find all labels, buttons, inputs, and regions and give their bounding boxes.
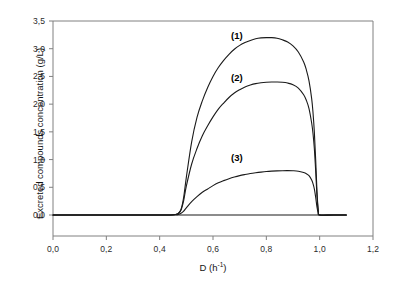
curve-label-1: (1) <box>231 30 243 41</box>
curve-label-2: (2) <box>231 72 243 83</box>
curve-path-2 <box>53 82 346 215</box>
x-axis-title-close: ) <box>223 262 226 273</box>
y-tick-label: 3,5 <box>10 16 45 26</box>
plot-area <box>0 0 394 289</box>
axes <box>49 21 373 240</box>
x-tick-label: 0,8 <box>260 244 272 254</box>
y-axis-title: Excreted compounds concentration (g/L) <box>34 29 45 239</box>
curve-path-1 <box>53 38 346 216</box>
x-tick-label: 0,4 <box>154 244 166 254</box>
x-axis-title-base: D (h <box>200 262 218 273</box>
x-tick-label: 1,2 <box>367 244 379 254</box>
curves <box>53 38 346 216</box>
x-tick-label: 1,0 <box>314 244 326 254</box>
x-tick-label: 0,2 <box>100 244 112 254</box>
x-tick-label: 0,0 <box>47 244 59 254</box>
chart-figure: 0,00,51,01,52,02,53,03,5 0,00,20,40,60,8… <box>0 0 394 289</box>
curve-path-3 <box>53 171 346 215</box>
curve-label-3: (3) <box>231 152 243 163</box>
x-axis-title: D (h-1) <box>53 262 373 273</box>
x-tick-label: 0,6 <box>207 244 219 254</box>
